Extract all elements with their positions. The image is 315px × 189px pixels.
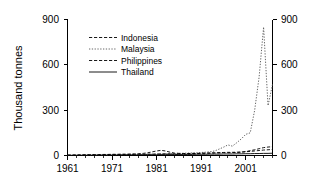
legend-label-malaysia: Malaysia: [121, 44, 155, 54]
right-ytick-label-900: 900: [281, 14, 298, 25]
legend-label-indonesia: Indonesia: [121, 33, 158, 43]
right-ytick-label-0: 0: [281, 150, 287, 161]
right-ytick-label-300: 300: [281, 105, 298, 116]
data-series-group: [68, 27, 273, 155]
ytick-label-0: 0: [53, 150, 59, 161]
line-chart: 0 300 600 900 0 300 600 900 1961 1971 19…: [0, 0, 315, 189]
ytick-label-300: 300: [42, 105, 59, 116]
legend-label-thailand: Thailand: [121, 67, 154, 77]
chart-legend: Indonesia Malaysia Philippines Thailand: [89, 33, 162, 78]
xtick-label-2001: 2001: [235, 163, 258, 174]
left-axis-ticks: [64, 20, 68, 156]
xtick-label-1961: 1961: [56, 163, 79, 174]
right-ytick-label-600: 600: [281, 59, 298, 70]
xtick-label-1971: 1971: [101, 163, 124, 174]
y-axis-title: Thousand tonnes: [12, 45, 24, 131]
chart-container: 0 300 600 900 0 300 600 900 1961 1971 19…: [0, 0, 315, 189]
xtick-label-1991: 1991: [190, 163, 213, 174]
ytick-label-900: 900: [42, 14, 59, 25]
ytick-label-600: 600: [42, 59, 59, 70]
series-line-malaysia: [68, 27, 273, 155]
right-axis-ticks: [273, 20, 277, 156]
xtick-label-1981: 1981: [145, 163, 168, 174]
legend-label-philippines: Philippines: [121, 56, 162, 66]
